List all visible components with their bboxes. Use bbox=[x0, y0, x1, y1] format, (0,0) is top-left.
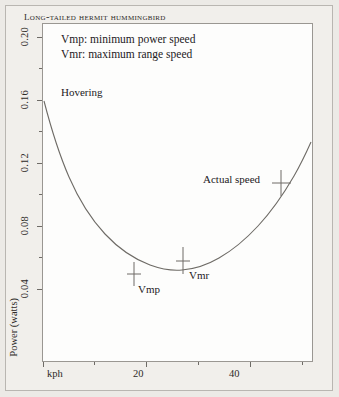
y-tick-label-0.12: 0.12 bbox=[19, 153, 30, 172]
annotation-hovering: Hovering bbox=[61, 86, 103, 98]
figure-container: Long-tailed hermit hummingbird 0.20 0.16… bbox=[0, 0, 339, 397]
annotation-vmr: Vmr bbox=[189, 269, 209, 281]
page-title: Long-tailed hermit hummingbird bbox=[24, 9, 166, 24]
marker-actual-speed bbox=[272, 170, 291, 196]
plot-frame: Vmp: minimum power speed Vmr: maximum ra… bbox=[42, 23, 313, 362]
x-axis-origin-label: kph bbox=[47, 368, 63, 379]
x-tick-label-40: 40 bbox=[229, 368, 240, 379]
x-tick-mark-minor-30 bbox=[198, 362, 199, 365]
x-tick-mark-minor-10 bbox=[94, 362, 95, 365]
power-curve-line bbox=[44, 101, 311, 270]
x-tick-mark-20 bbox=[146, 362, 147, 367]
y-tick-label-0.16: 0.16 bbox=[19, 90, 30, 109]
x-tick-mark-minor-50 bbox=[302, 362, 303, 365]
x-tick-mark-0 bbox=[43, 362, 44, 367]
y-tick-label-0.04: 0.04 bbox=[19, 279, 30, 298]
plot-area bbox=[43, 24, 312, 361]
x-tick-label-20: 20 bbox=[133, 368, 144, 379]
y-tick-label-0.08: 0.08 bbox=[19, 216, 30, 235]
y-axis-title: Power (watts) bbox=[8, 298, 19, 357]
annotation-actual-speed: Actual speed bbox=[203, 173, 260, 185]
x-tick-mark-40 bbox=[250, 362, 251, 367]
annotation-vmp: Vmp bbox=[138, 283, 160, 295]
y-tick-label-0.20: 0.20 bbox=[19, 27, 30, 46]
